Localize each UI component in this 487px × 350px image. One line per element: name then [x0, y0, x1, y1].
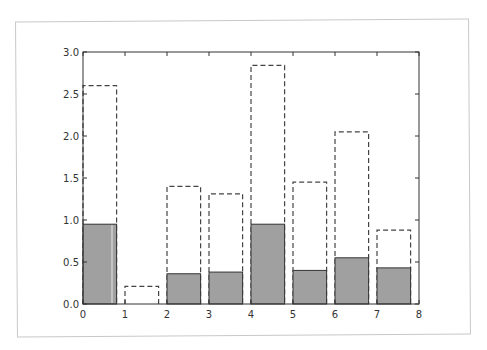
solid-bar — [209, 272, 243, 304]
y-tick-label: 1.0 — [63, 215, 79, 226]
y-tick-label: 0.5 — [63, 257, 79, 268]
y-tick-label: 2.5 — [63, 89, 79, 100]
dashed-bar — [125, 286, 159, 304]
x-tick-label: 0 — [80, 309, 86, 320]
solid-bar — [377, 268, 411, 304]
bar-chart: 012345678 0.00.51.01.52.02.53.0 — [0, 0, 487, 350]
x-tick-label: 3 — [206, 309, 212, 320]
solid-bar — [167, 274, 201, 304]
x-tick-label: 1 — [122, 309, 128, 320]
x-tick-label: 2 — [164, 309, 170, 320]
y-tick-label: 3.0 — [63, 47, 79, 58]
solid-bar — [335, 258, 369, 304]
solid-bar — [293, 270, 327, 304]
x-tick-label: 6 — [332, 309, 338, 320]
x-tick-label: 4 — [248, 309, 254, 320]
solid-bars — [83, 224, 411, 304]
y-tick-label: 2.0 — [63, 131, 79, 142]
y-tick-label: 0.0 — [63, 299, 79, 310]
x-tick-label: 5 — [290, 309, 296, 320]
solid-bar — [251, 224, 285, 304]
x-tick-labels: 012345678 — [80, 309, 422, 320]
y-tick-labels: 0.00.51.01.52.02.53.0 — [63, 47, 79, 310]
x-tick-label: 8 — [416, 309, 422, 320]
y-tick-label: 1.5 — [63, 173, 79, 184]
x-tick-label: 7 — [374, 309, 380, 320]
